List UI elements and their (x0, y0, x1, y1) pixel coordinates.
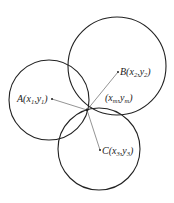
label-a: A(x1,y1) (16, 93, 48, 105)
trilateration-diagram: A(x1,y1) B(x2,y2) (xm,ym) C(x3,y3) (0, 0, 174, 203)
line-to-b (87, 72, 118, 110)
point-b (117, 71, 119, 73)
label-b: B(x2,y2) (120, 66, 151, 78)
circle-c (58, 108, 140, 190)
point-a (51, 98, 53, 100)
line-to-c (87, 110, 100, 150)
label-c: C(x3,y3) (102, 145, 134, 157)
label-intersection: (xm,ym) (105, 92, 133, 104)
intersection-point (86, 109, 89, 112)
point-c (99, 149, 101, 151)
